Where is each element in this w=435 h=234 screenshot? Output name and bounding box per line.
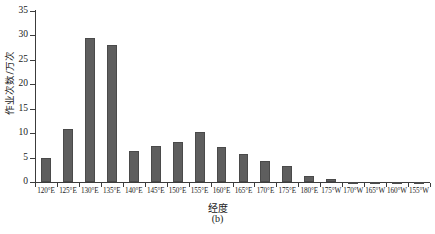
bar bbox=[239, 154, 249, 182]
bar bbox=[282, 166, 292, 182]
bar bbox=[260, 161, 270, 182]
x-axis-tick-label: 175°W bbox=[320, 188, 342, 195]
bar bbox=[151, 146, 161, 182]
x-axis-tick bbox=[145, 183, 146, 187]
x-axis-tick bbox=[189, 183, 190, 187]
x-axis-tick bbox=[276, 183, 277, 187]
x-axis-tick bbox=[101, 183, 102, 187]
x-axis-tick-label: 135°E bbox=[101, 188, 123, 195]
bars-container bbox=[36, 10, 430, 182]
x-axis-tick bbox=[79, 183, 80, 187]
x-axis-tick bbox=[57, 183, 58, 187]
y-axis-tick bbox=[30, 158, 35, 159]
y-axis-tick bbox=[30, 109, 35, 110]
bar bbox=[370, 182, 380, 184]
y-axis-tick-label: 0 bbox=[6, 177, 28, 187]
x-axis-tick bbox=[35, 183, 36, 187]
bar bbox=[348, 182, 358, 184]
y-axis-title: 作业次数/万次 bbox=[2, 23, 16, 143]
bar bbox=[129, 151, 139, 182]
panel-label: (b) bbox=[0, 213, 435, 224]
bar bbox=[85, 38, 95, 182]
y-axis-tick-label-wrap: 0 bbox=[0, 182, 28, 183]
x-axis-tick-label: 180°E bbox=[298, 188, 320, 195]
bar bbox=[392, 182, 402, 184]
x-axis-tick-label: 120°E bbox=[35, 188, 57, 195]
x-axis-tick bbox=[211, 183, 212, 187]
y-axis-tick-label: 35 bbox=[6, 6, 28, 16]
x-axis-tick bbox=[233, 183, 234, 187]
x-axis-tick-label: 165°W bbox=[364, 188, 386, 195]
x-axis-tick bbox=[298, 183, 299, 187]
x-axis-tick-label: 160°W bbox=[386, 188, 408, 195]
y-axis-tick bbox=[30, 84, 35, 85]
x-axis-tick-label: 175°E bbox=[276, 188, 298, 195]
x-axis-tick-label: 165°E bbox=[233, 188, 255, 195]
y-axis-tick bbox=[30, 133, 35, 134]
x-axis-tick bbox=[167, 183, 168, 187]
y-axis-tick bbox=[30, 35, 35, 36]
x-axis-tick-label: 145°E bbox=[145, 188, 167, 195]
bar bbox=[304, 176, 314, 182]
x-axis-tick-label: 155°E bbox=[189, 188, 211, 195]
x-axis-tick-label: 160°E bbox=[211, 188, 233, 195]
x-axis-tick bbox=[430, 183, 431, 187]
bar bbox=[414, 182, 424, 184]
x-axis-tick bbox=[123, 183, 124, 187]
bar bbox=[63, 129, 73, 182]
chart-figure: 05101520253035 120°E125°E130°E135°E140°E… bbox=[0, 0, 435, 234]
x-axis-tick-label: 155°W bbox=[408, 188, 430, 195]
x-axis-tick-label: 170°W bbox=[342, 188, 364, 195]
x-axis-tick-label: 170°E bbox=[254, 188, 276, 195]
x-axis-tick-label: 150°E bbox=[167, 188, 189, 195]
bar bbox=[173, 142, 183, 182]
y-axis-tick-label-wrap: 35 bbox=[0, 11, 28, 12]
x-axis-tick-label: 140°E bbox=[123, 188, 145, 195]
bar bbox=[326, 179, 336, 182]
y-axis-tick-label: 5 bbox=[6, 153, 28, 163]
bar bbox=[41, 158, 51, 182]
bar bbox=[217, 147, 227, 182]
y-axis-tick bbox=[30, 60, 35, 61]
x-axis-tick-label: 125°E bbox=[57, 188, 79, 195]
bar bbox=[195, 132, 205, 182]
x-axis-tick bbox=[254, 183, 255, 187]
x-axis-tick-label: 130°E bbox=[79, 188, 101, 195]
bar bbox=[107, 45, 117, 182]
y-axis-tick-label-wrap: 5 bbox=[0, 158, 28, 159]
y-axis-tick bbox=[30, 11, 35, 12]
